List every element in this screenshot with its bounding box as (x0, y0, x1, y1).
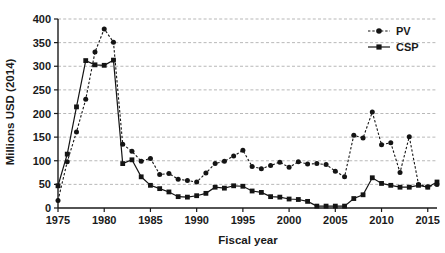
y-tick-label: 400 (33, 13, 51, 25)
data-point-csp (222, 186, 227, 191)
data-point-pv (157, 172, 162, 177)
data-point-pv (213, 161, 218, 166)
data-point-csp (287, 197, 292, 202)
x-tick-label: 2015 (416, 214, 440, 226)
data-point-csp (167, 190, 172, 195)
data-point-csp (102, 63, 107, 68)
data-point-pv (268, 163, 273, 168)
series-line-pv (58, 29, 437, 201)
legend-marker-pv (376, 28, 382, 34)
data-point-pv (361, 136, 366, 141)
data-point-csp (148, 183, 153, 188)
data-point-pv (259, 166, 264, 171)
data-point-pv (370, 110, 375, 115)
data-point-csp (435, 180, 440, 185)
data-point-csp (333, 204, 338, 209)
data-point-csp (342, 204, 347, 209)
y-tick-label: 150 (33, 131, 51, 143)
y-tick-label: 100 (33, 155, 51, 167)
data-point-csp (416, 183, 421, 188)
y-tick-label: 0 (45, 202, 51, 214)
data-point-pv (56, 198, 61, 203)
data-point-csp (185, 195, 190, 200)
data-point-csp (139, 174, 144, 179)
legend-marker-csp (376, 44, 381, 49)
y-tick-label: 50 (39, 178, 51, 190)
x-tick-label: 2005 (323, 214, 347, 226)
data-point-pv (324, 162, 329, 167)
data-point-pv (74, 129, 79, 134)
x-tick-label: 2010 (369, 214, 393, 226)
data-point-csp (379, 181, 384, 186)
data-point-pv (240, 148, 245, 153)
data-point-pv (296, 159, 301, 164)
data-point-pv (139, 159, 144, 164)
x-tick-label: 1985 (138, 214, 162, 226)
data-point-pv (83, 97, 88, 102)
data-point-csp (388, 183, 393, 188)
legend: PVCSP (368, 25, 419, 53)
data-point-pv (407, 134, 412, 139)
data-point-csp (259, 190, 264, 195)
data-point-pv (314, 161, 319, 166)
x-tick-label: 1975 (46, 214, 70, 226)
y-tick-label: 300 (33, 60, 51, 72)
x-tick-label: 1980 (92, 214, 116, 226)
data-point-csp (120, 161, 125, 166)
data-point-pv (250, 164, 255, 169)
y-tick-label: 350 (33, 37, 51, 49)
data-point-pv (166, 171, 171, 176)
data-point-csp (130, 157, 135, 162)
data-point-csp (296, 197, 301, 202)
data-point-csp (305, 199, 310, 204)
data-point-csp (204, 191, 209, 196)
data-point-csp (314, 204, 319, 209)
data-point-csp (240, 184, 245, 189)
data-point-csp (425, 185, 430, 190)
data-point-csp (250, 189, 255, 194)
data-point-csp (65, 152, 70, 157)
data-point-pv (176, 177, 181, 182)
data-point-csp (194, 193, 199, 198)
data-point-csp (324, 204, 329, 209)
data-point-csp (83, 58, 88, 63)
data-point-csp (111, 58, 116, 63)
data-point-pv (351, 133, 356, 138)
data-point-csp (231, 183, 236, 188)
data-point-csp (277, 195, 282, 200)
data-point-csp (268, 194, 273, 199)
data-point-csp (407, 185, 412, 190)
legend-label-csp: CSP (396, 41, 419, 53)
data-point-csp (56, 183, 61, 188)
y-tick-label: 200 (33, 108, 51, 120)
data-point-csp (361, 192, 366, 197)
data-point-csp (351, 196, 356, 201)
x-tick-label: 1995 (231, 214, 255, 226)
y-axis-title: Millions USD (2014) (4, 58, 16, 165)
ytick-labels-group: 050100150200250300350400 (33, 13, 51, 214)
data-point-csp (157, 186, 162, 191)
data-point-pv (333, 169, 338, 174)
data-point-pv (148, 156, 153, 161)
data-point-pv (342, 174, 347, 179)
data-point-pv (203, 171, 208, 176)
legend-label-pv: PV (396, 25, 411, 37)
x-tick-label: 2000 (277, 214, 301, 226)
data-point-pv (388, 140, 393, 145)
data-point-pv (287, 165, 292, 170)
data-point-csp (398, 185, 403, 190)
data-point-pv (92, 50, 97, 55)
data-point-csp (370, 175, 375, 180)
series-group (56, 26, 440, 208)
x-tick-label: 1990 (184, 214, 208, 226)
data-point-pv (277, 160, 282, 165)
data-point-pv (379, 142, 384, 147)
data-point-pv (222, 159, 227, 164)
data-point-csp (93, 62, 98, 67)
data-point-csp (176, 194, 181, 199)
chart-container: 050100150200250300350400 197519801985199… (0, 0, 445, 253)
data-point-pv (185, 178, 190, 183)
data-point-pv (129, 149, 134, 154)
data-point-pv (102, 26, 107, 31)
data-point-pv (305, 162, 310, 167)
